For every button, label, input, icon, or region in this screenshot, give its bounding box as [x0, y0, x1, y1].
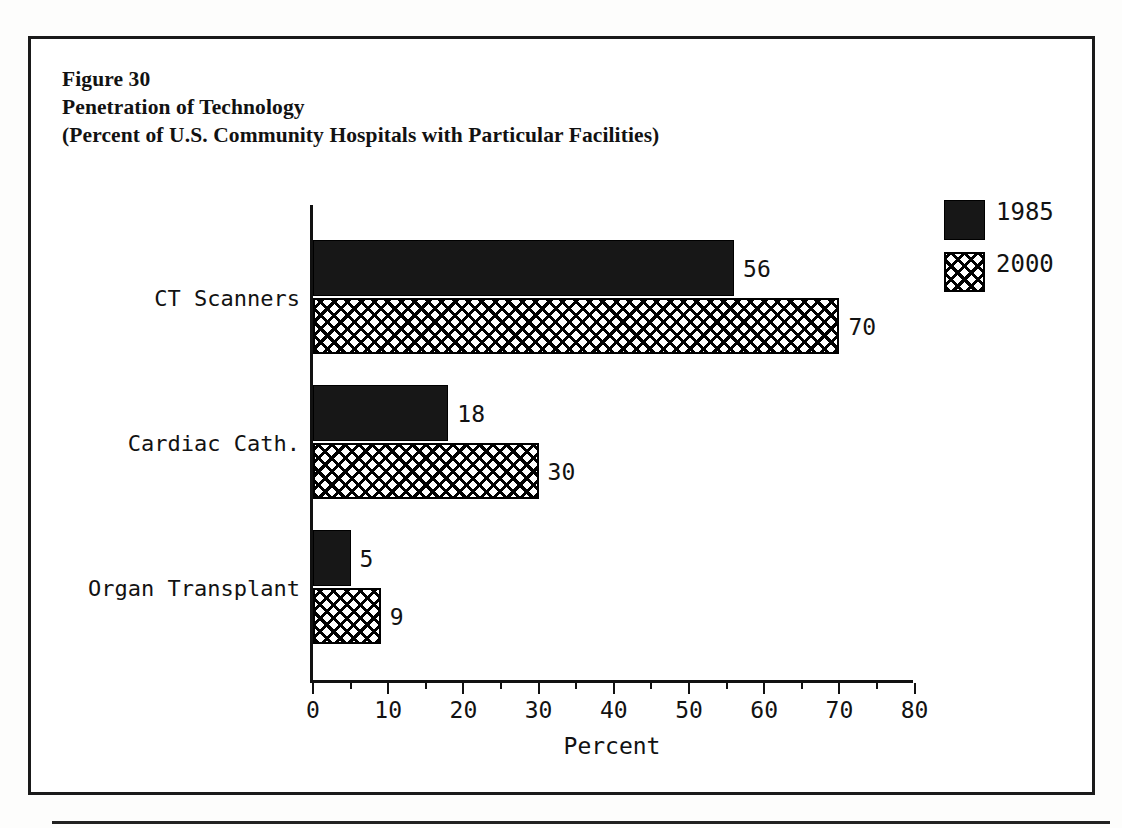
- x-tick-major: [838, 683, 840, 694]
- bar-value-label: 18: [457, 401, 485, 427]
- bar-ct-scanners-1985: [313, 240, 734, 296]
- x-tick-label: 30: [525, 697, 553, 723]
- bar-cardiac-cath-1985: [313, 385, 448, 441]
- x-tick-label: 10: [374, 697, 402, 723]
- x-tick-minor: [575, 683, 577, 689]
- x-axis-title: Percent: [564, 733, 661, 759]
- x-tick-label: 20: [450, 697, 478, 723]
- x-tick-major: [387, 683, 389, 694]
- x-tick-major: [538, 683, 540, 694]
- bar-cardiac-cath-2000: [313, 443, 539, 499]
- bar-value-label: 30: [548, 459, 576, 485]
- legend-swatch-2000: [944, 252, 985, 292]
- x-tick-major: [688, 683, 690, 694]
- bar-ct-scanners-2000: [313, 298, 839, 354]
- x-tick-minor: [726, 683, 728, 689]
- x-tick-label: 0: [306, 697, 320, 723]
- category-label: CT Scanners: [154, 286, 300, 311]
- legend-label-1985: 1985: [996, 198, 1054, 226]
- x-tick-major: [312, 683, 314, 694]
- page-background: Figure 30 Penetration of Technology (Per…: [0, 0, 1122, 828]
- bar-organ-transplant-1985: [313, 530, 351, 586]
- x-tick-major: [462, 683, 464, 694]
- x-tick-major: [763, 683, 765, 694]
- bar-value-label: 5: [360, 546, 374, 572]
- x-tick-minor: [650, 683, 652, 689]
- x-tick-label: 80: [901, 697, 929, 723]
- x-tick-label: 60: [750, 697, 778, 723]
- x-axis-line: [310, 680, 913, 683]
- bar-value-label: 9: [390, 604, 404, 630]
- x-tick-minor: [350, 683, 352, 689]
- x-tick-minor: [876, 683, 878, 689]
- x-tick-label: 70: [826, 697, 854, 723]
- category-label: Organ Transplant: [88, 576, 300, 601]
- chart-plot-area: 01020304050607080 Percent CT ScannersCar…: [0, 0, 1122, 828]
- legend-swatch-1985: [944, 200, 985, 240]
- x-tick-label: 50: [675, 697, 703, 723]
- x-tick-minor: [801, 683, 803, 689]
- page-separator-rule: [52, 821, 1110, 824]
- x-tick-major: [613, 683, 615, 694]
- x-tick-major: [914, 683, 916, 694]
- bar-organ-transplant-2000: [313, 588, 381, 644]
- bar-value-label: 70: [848, 314, 876, 340]
- legend-label-2000: 2000: [996, 250, 1054, 278]
- x-tick-minor: [500, 683, 502, 689]
- x-tick-label: 40: [600, 697, 628, 723]
- bar-value-label: 56: [743, 256, 771, 282]
- x-tick-minor: [425, 683, 427, 689]
- category-label: Cardiac Cath.: [128, 431, 300, 456]
